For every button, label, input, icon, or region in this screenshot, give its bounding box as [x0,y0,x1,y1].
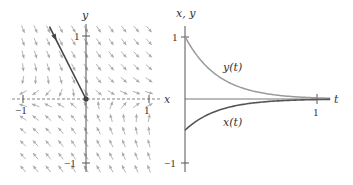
time-plot: 1 1 −1 t x, y y(t) x(t) [164,7,339,172]
time-y-axis-label: x, y [176,7,196,20]
phase-x-label: x [164,93,171,106]
field-arrowhead [110,29,113,33]
phase-x-tick-label-1: 1 [144,104,150,116]
field-arrowhead [21,80,24,84]
figure: −1 1 1 −1 x y 1 1 −1 t x, y y(t) x(t) [0,0,353,185]
phase-x-tick-label-neg1: −1 [15,104,27,116]
time-t-label: t [334,93,339,106]
curve-x-of-t [185,99,330,130]
field-arrowhead [98,54,101,58]
equilibrium-point [83,96,88,101]
curve-y-label: y(t) [222,61,242,74]
time-y-tick-label-1: 1 [172,31,178,43]
phase-y-tick-label-neg1: −1 [64,157,76,169]
time-t-tick-label-1: 1 [313,106,319,118]
field-arrowhead [58,166,61,170]
field-arrowhead [71,140,74,144]
field-arrowhead [34,81,37,84]
trajectory-arrowhead [51,34,56,41]
curve-x-label: x(t) [223,116,242,129]
time-y-tick-label-neg1: −1 [164,157,176,169]
field-arrowhead [122,127,125,131]
field-arrowhead [47,67,50,71]
field-arrowhead [22,42,25,46]
field-arrowhead [147,152,150,156]
phase-y-label: y [81,9,89,22]
phase-plane: −1 1 1 −1 x y [12,9,171,173]
phase-y-tick-label-1: 1 [74,30,80,42]
field-arrowhead [34,55,37,59]
curve-y-of-t [185,37,330,99]
field-arrowhead [135,114,138,117]
field-arrowhead [135,140,138,144]
field-arrowhead [34,68,37,72]
field-arrowhead [135,127,138,131]
